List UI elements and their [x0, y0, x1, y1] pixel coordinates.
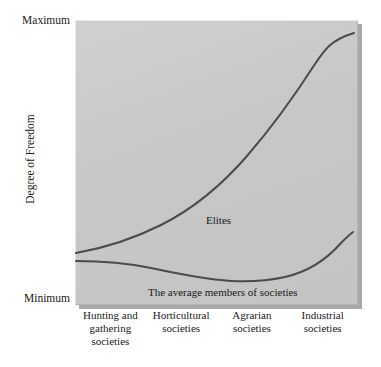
- x-tick-label-horticultural: Horticultural societies: [146, 309, 217, 335]
- x-axis-labels: Hunting and gathering societies Horticul…: [75, 309, 358, 365]
- series-label-average-members: The average members of societies: [148, 286, 298, 298]
- y-axis-min-label: Minimum: [4, 292, 70, 305]
- x-tick-line-2: societies: [146, 322, 217, 335]
- y-axis-title: Degree of Freedom: [24, 99, 40, 219]
- average-members-curve: [76, 232, 353, 281]
- x-tick-line-2: gathering: [75, 322, 146, 335]
- x-tick-line-1: Agrarian: [217, 309, 288, 322]
- x-tick-label-industrial: Industrial societies: [287, 309, 358, 335]
- x-tick-line-1: Horticultural: [146, 309, 217, 322]
- series-label-elites: Elites: [206, 214, 231, 226]
- y-axis-max-label: Maximum: [4, 14, 70, 27]
- x-tick-line-3: societies: [75, 335, 146, 348]
- x-tick-line-1: Hunting and: [75, 309, 146, 322]
- x-tick-line-1: Industrial: [287, 309, 358, 322]
- x-tick-line-2: societies: [217, 322, 288, 335]
- x-tick-label-agrarian: Agrarian societies: [217, 309, 288, 335]
- curves-layer: [75, 20, 358, 305]
- degree-of-freedom-chart: Maximum Minimum Degree of Freedom Elites…: [0, 0, 381, 367]
- x-tick-line-2: societies: [287, 322, 358, 335]
- x-tick-label-hunting-gathering: Hunting and gathering societies: [75, 309, 146, 348]
